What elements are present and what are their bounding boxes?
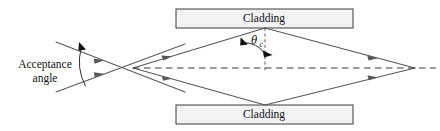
acceptance-angle-arc: [79, 48, 85, 86]
arrowhead-theta-end: [263, 51, 273, 58]
acceptance-angle-label-line2: angle: [33, 72, 58, 85]
arrowhead-incoming-upper: [94, 59, 104, 64]
arrowhead-theta-start: [240, 37, 248, 45]
cladding-top-label: Cladding: [243, 12, 285, 25]
cladding-bottom-label: Cladding: [243, 108, 285, 121]
core-ray-bottom-to-focus: [265, 68, 415, 105]
theta-c-symbol: θ: [251, 33, 257, 47]
acceptance-angle-label-line1: Acceptance: [18, 58, 72, 71]
diagram-canvas: Cladding Cladding Acceptance angle θ c: [0, 0, 440, 131]
core-ray-up-to-top: [133, 28, 265, 68]
arrowhead-core-lower-right: [367, 75, 378, 80]
arrowhead-core-upper-left: [161, 56, 172, 61]
fiber-optic-diagram: Cladding Cladding Acceptance angle θ c: [0, 0, 440, 131]
core-ray-down-to-bottom: [133, 68, 265, 105]
theta-c-subscript: c: [260, 40, 264, 49]
arrowhead-acceptance-angle: [78, 42, 86, 51]
core-ray-top-to-focus: [265, 28, 415, 68]
